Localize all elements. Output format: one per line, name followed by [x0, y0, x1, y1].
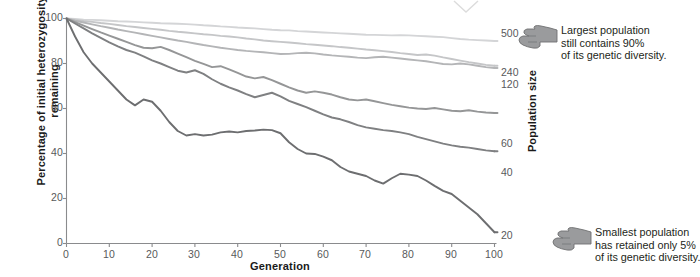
series-line-40 [67, 19, 495, 152]
series-line-500 [67, 19, 495, 42]
series-line-240 [67, 19, 495, 66]
leader-lines-group [495, 41, 498, 232]
series-group [67, 19, 495, 233]
